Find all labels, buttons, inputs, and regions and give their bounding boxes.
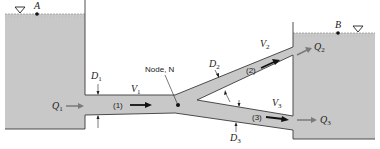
v3-label: V3 xyxy=(272,97,282,110)
node-dot xyxy=(176,103,180,107)
v1-label: V1 xyxy=(131,83,141,96)
d1-label: D1 xyxy=(90,70,102,83)
pipe-network-diagram: A B Node, N Q1 D1 V1 (1) D2 V2 (2) xyxy=(0,0,380,149)
pipe-3-label: (3) xyxy=(252,113,262,122)
point-a-label: A xyxy=(33,0,41,11)
d3-label: D3 xyxy=(229,132,241,145)
pipe-2-label: (2) xyxy=(246,66,256,75)
d2-label: D2 xyxy=(208,58,220,71)
reservoir-b xyxy=(293,22,375,139)
point-b-dot xyxy=(336,31,340,35)
surface-marker-b xyxy=(353,26,363,32)
pipe-1-label: (1) xyxy=(113,101,123,110)
v2-label: V2 xyxy=(260,38,270,51)
reservoir-a xyxy=(5,0,85,129)
pipe-network xyxy=(85,47,293,130)
node-label: Node, N xyxy=(145,65,175,74)
point-a-dot xyxy=(35,12,39,16)
point-b-label: B xyxy=(335,19,341,30)
surface-marker-a xyxy=(15,7,25,13)
